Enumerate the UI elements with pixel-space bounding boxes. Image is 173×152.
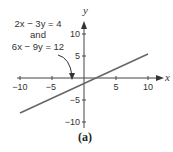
y-axis-label: y xyxy=(82,4,88,16)
x-tick-label: −5 xyxy=(46,82,56,92)
y-tick-label: 10 xyxy=(70,29,80,39)
annotation-line-3: 6x − 9y = 12 xyxy=(12,41,64,52)
chart: −10 −5 5 10 10 5 −5 −10 x y 2x − 3y = 4 … xyxy=(0,0,173,152)
annotation-line-2: and xyxy=(30,29,46,40)
arrowhead-icon xyxy=(69,73,75,80)
x-axis-label: x xyxy=(164,71,170,83)
y-tick-label: −5 xyxy=(70,95,80,105)
x-tick-label: 10 xyxy=(143,82,153,92)
annotation-line-1: 2x − 3y = 4 xyxy=(14,18,61,29)
y-axis-arrow-icon xyxy=(81,21,87,29)
figure-caption: (a) xyxy=(78,130,92,144)
y-tick-label: 5 xyxy=(75,51,80,61)
annotation-arrow xyxy=(58,55,72,76)
y-tick-label: −10 xyxy=(65,117,80,127)
x-tick-label: 5 xyxy=(113,82,118,92)
x-axis-arrow-icon xyxy=(156,75,164,81)
x-tick-label: −10 xyxy=(12,82,27,92)
